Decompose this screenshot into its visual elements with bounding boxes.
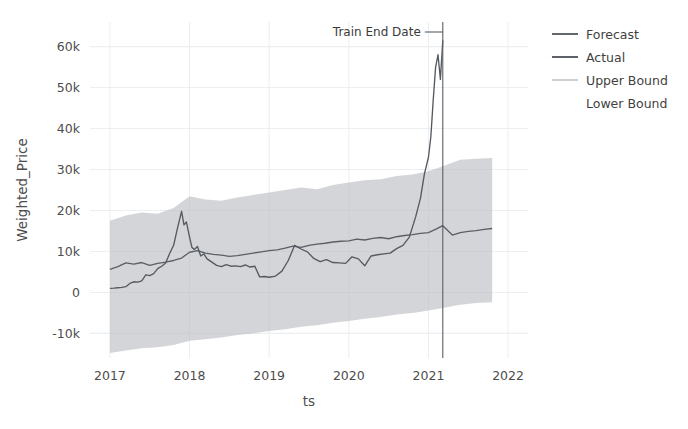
x-tick-label: 2021	[413, 368, 445, 383]
chart-figure: Train End Date 201720182019202020212022 …	[0, 0, 688, 429]
y-tick-label: 10k	[57, 244, 81, 259]
x-tick-label: 2018	[174, 368, 206, 383]
y-axis-title: Weighted_Price	[14, 138, 30, 242]
x-axis: 201720182019202020212022	[94, 368, 524, 383]
y-tick-label: 50k	[57, 80, 81, 95]
x-tick-label: 2022	[492, 368, 524, 383]
annotation-label-train-end-date: Train End Date	[332, 25, 421, 39]
y-tick-label: -10k	[52, 326, 80, 341]
x-tick-label: 2017	[94, 368, 126, 383]
y-tick-label: 0	[72, 285, 80, 300]
legend: ForecastActualUpper BoundLower Bound	[552, 27, 668, 111]
y-tick-label: 40k	[57, 121, 81, 136]
y-axis: -10k010k20k30k40k50k60k	[52, 39, 80, 341]
forecast-chart: Train End Date 201720182019202020212022 …	[0, 0, 688, 429]
x-tick-label: 2020	[333, 368, 365, 383]
y-tick-label: 30k	[57, 162, 81, 177]
legend-label: Upper Bound	[586, 73, 668, 88]
x-tick-label: 2019	[253, 368, 285, 383]
legend-label: Actual	[586, 50, 625, 65]
legend-label: Lower Bound	[586, 96, 667, 111]
y-tick-label: 60k	[57, 39, 81, 54]
legend-label: Forecast	[586, 27, 639, 42]
y-tick-label: 20k	[57, 203, 81, 218]
x-axis-title: ts	[303, 393, 315, 409]
